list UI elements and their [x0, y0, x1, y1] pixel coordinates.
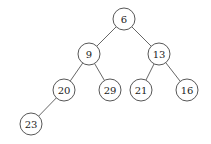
tree-node-9: 9 [78, 43, 100, 65]
tree-node-16: 16 [176, 79, 198, 101]
tree-node-29: 29 [99, 79, 121, 101]
tree-node-20: 20 [53, 79, 75, 101]
tree-edge-9-29 [95, 64, 105, 81]
node-label: 29 [104, 85, 117, 96]
tree-edge-6-13 [132, 27, 151, 46]
node-label: 6 [121, 14, 127, 25]
tree-edge-6-9 [97, 27, 116, 46]
tree-node-13: 13 [148, 43, 170, 65]
node-label: 13 [153, 49, 166, 60]
tree-edges [39, 27, 181, 116]
node-label: 21 [135, 85, 148, 96]
tree-node-6: 6 [113, 8, 135, 30]
tree-nodes: 69132029211623 [20, 8, 198, 135]
node-label: 9 [86, 49, 92, 60]
tree-node-21: 21 [130, 79, 152, 101]
tree-edge-13-21 [146, 64, 154, 80]
node-label: 23 [25, 119, 38, 130]
tree-edge-9-20 [70, 63, 82, 81]
node-label: 20 [58, 85, 71, 96]
tree-node-23: 23 [20, 113, 42, 135]
tree-edge-13-16 [166, 63, 180, 82]
tree-edge-20-23 [39, 98, 57, 116]
binary-tree-diagram: 69132029211623 [0, 0, 211, 144]
node-label: 16 [181, 85, 194, 96]
